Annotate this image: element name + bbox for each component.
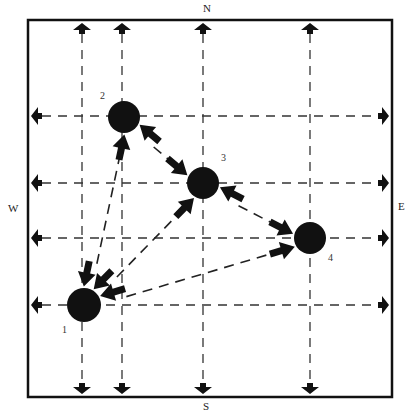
- arrow-north-icon: [194, 23, 212, 34]
- node-circle: [294, 222, 326, 254]
- arrow-north-icon: [73, 23, 91, 34]
- node-2: 2: [100, 90, 140, 133]
- node-circle: [67, 288, 101, 322]
- arrow-west-icon: [31, 229, 42, 247]
- arrow-south-icon: [301, 383, 319, 394]
- boundary-arrows: [31, 23, 389, 394]
- arrow-west-icon: [31, 174, 42, 192]
- edge-3-4: [220, 186, 293, 236]
- arrow-east-icon: [378, 174, 389, 192]
- arrow-north-icon: [113, 23, 131, 34]
- flow-arrowhead-icon: [113, 134, 131, 160]
- node-label: 3: [221, 152, 226, 163]
- arrow-south-icon: [194, 383, 212, 394]
- arrow-west-icon: [31, 107, 42, 125]
- compass-west-label: W: [8, 202, 18, 214]
- flow-arrowhead-icon: [269, 242, 295, 259]
- node-label: 1: [62, 324, 67, 335]
- node-label: 2: [100, 90, 105, 101]
- arrow-east-icon: [378, 296, 389, 314]
- arrow-east-icon: [378, 229, 389, 247]
- flow-arrowhead-icon: [220, 186, 245, 203]
- edge-1-4: [100, 242, 295, 301]
- arrow-south-icon: [73, 383, 91, 394]
- edge-2-3: [140, 125, 188, 175]
- node-label: 4: [328, 252, 333, 263]
- flow-arrowhead-icon: [78, 260, 96, 286]
- node-circle: [187, 167, 219, 199]
- grid-lines: [42, 34, 378, 383]
- arrow-east-icon: [378, 107, 389, 125]
- flow-arrowhead-icon: [173, 198, 194, 219]
- nodes: 1234: [62, 90, 333, 335]
- arrow-north-icon: [301, 23, 319, 34]
- flow-arrowhead-icon: [140, 125, 162, 144]
- arrow-west-icon: [31, 296, 42, 314]
- flow-arrowhead-icon: [268, 219, 293, 236]
- node-4: 4: [294, 222, 333, 263]
- diagram-canvas: 1234: [0, 0, 414, 414]
- connections: [78, 125, 295, 301]
- node-3: 3: [187, 152, 226, 199]
- network-diagram: 1234 N S W E: [0, 0, 414, 414]
- compass-east-label: E: [398, 200, 405, 212]
- flow-arrowhead-icon: [165, 156, 187, 175]
- compass-south-label: S: [203, 400, 209, 412]
- arrow-south-icon: [113, 383, 131, 394]
- compass-north-label: N: [203, 2, 211, 14]
- node-circle: [108, 101, 140, 133]
